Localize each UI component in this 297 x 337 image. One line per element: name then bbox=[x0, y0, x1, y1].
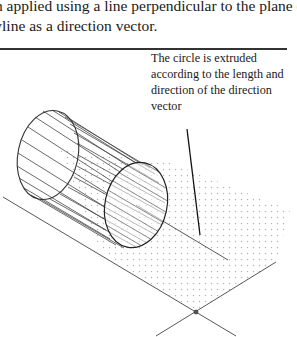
intersection-point bbox=[194, 310, 198, 314]
extrusion-diagram bbox=[0, 0, 297, 337]
